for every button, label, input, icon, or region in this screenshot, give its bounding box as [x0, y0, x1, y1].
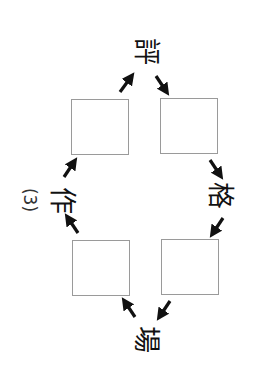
kanji-bottom: 場: [131, 324, 161, 354]
arrow-icon: [64, 162, 74, 177]
kanji-left: 作: [47, 185, 77, 215]
answer-box-bottom-right[interactable]: [161, 239, 219, 295]
arrow-icon: [210, 160, 220, 175]
kanji-top: 評: [131, 36, 161, 66]
arrow-icon: [125, 302, 135, 317]
answer-box-bottom-left[interactable]: [72, 240, 130, 296]
kanji-cycle-worksheet: (3) 評 格 場 作: [0, 0, 259, 373]
arrow-icon: [213, 218, 223, 233]
arrow-icon: [68, 218, 78, 233]
arrow-icon: [156, 76, 166, 91]
answer-box-top-left[interactable]: [71, 99, 129, 155]
arrow-icon: [120, 77, 131, 92]
arrow-icon: [160, 301, 170, 316]
problem-number-label: (3): [20, 188, 40, 212]
answer-box-top-right[interactable]: [160, 98, 218, 154]
kanji-right: 格: [205, 180, 235, 210]
